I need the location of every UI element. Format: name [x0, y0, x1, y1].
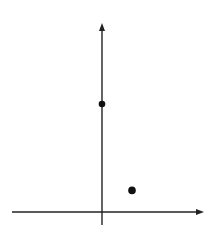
- y-axis-arrow-icon: [99, 23, 105, 31]
- point-vertex: [128, 187, 136, 195]
- point-y-intercept: [99, 101, 106, 108]
- parabola-chart: [0, 0, 209, 237]
- x-axis-arrow-icon: [196, 209, 204, 215]
- axes: [12, 23, 204, 225]
